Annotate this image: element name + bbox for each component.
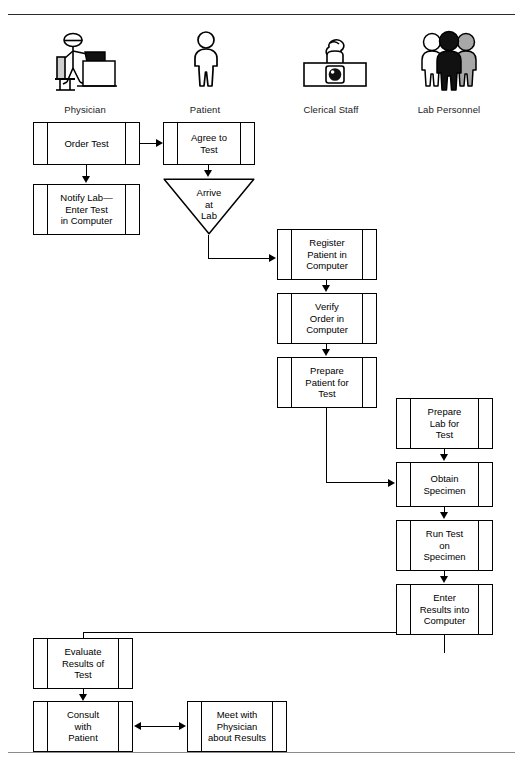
- connector-arrive-right: [208, 258, 270, 259]
- connector-arrive-down: [208, 235, 209, 259]
- standing-person-icon: [182, 30, 230, 100]
- arrowhead-prepare-to-obtain: [388, 479, 395, 487]
- box-order-test[interactable]: Order Test: [33, 122, 140, 165]
- arrowhead-meet-to-consult: [134, 722, 141, 730]
- arrowhead-register-to-verify: [322, 285, 330, 292]
- box-run-test-label: Run Test on Specimen: [420, 528, 468, 563]
- arrowhead-preplab-to-obtain: [440, 454, 448, 461]
- box-register-patient-label: Register Patient in Computer: [303, 237, 351, 272]
- arrowhead-evaluate-to-consult: [79, 694, 87, 701]
- box-evaluate-results-label: Evaluate Results of Test: [59, 646, 107, 681]
- clerk-at-counter-icon: [300, 32, 370, 100]
- box-notify-lab-label: Notify Lab— Enter Test in Computer: [57, 192, 115, 227]
- box-run-test[interactable]: Run Test on Specimen: [396, 520, 493, 571]
- box-prepare-patient-label: Prepare Patient for Test: [302, 365, 351, 400]
- arrowhead-run-to-enter: [440, 576, 448, 583]
- box-consult-patient[interactable]: Consult with Patient: [33, 701, 133, 752]
- role-label-lab-personnel: Lab Personnel: [399, 104, 499, 115]
- box-verify-order-label: Verify Order in Computer: [303, 301, 351, 336]
- box-prepare-patient[interactable]: Prepare Patient for Test: [277, 357, 377, 408]
- box-prepare-lab[interactable]: Prepare Lab for Test: [396, 398, 493, 449]
- box-enter-results[interactable]: Enter Results into Computer: [396, 584, 493, 635]
- arrowhead-obtain-to-run: [440, 512, 448, 519]
- physician-at-desk-icon: [47, 30, 123, 100]
- box-agree-to-test[interactable]: Agree to Test: [163, 122, 255, 165]
- role-label-patient: Patient: [155, 104, 255, 115]
- arrowhead-consult-to-meet: [179, 722, 186, 730]
- box-meet-physician-label: Meet with Physician about Results: [205, 709, 269, 744]
- role-label-clerical-staff: Clerical Staff: [281, 104, 381, 115]
- bottom-rule: [8, 752, 515, 753]
- three-people-icon: [413, 30, 485, 100]
- decision-arrive-at-lab-label: Arrive at Lab: [163, 187, 255, 222]
- arrowhead-agree-to-arrive: [204, 170, 212, 177]
- connector-enter-left: [83, 632, 445, 633]
- box-register-patient[interactable]: Register Patient in Computer: [277, 229, 377, 280]
- box-obtain-specimen-label: Obtain Specimen: [420, 473, 468, 496]
- box-evaluate-results[interactable]: Evaluate Results of Test: [33, 638, 133, 689]
- connector-consult-meet: [141, 726, 180, 727]
- box-enter-results-label: Enter Results into Computer: [417, 592, 473, 627]
- arrowhead-order-to-agree: [156, 139, 163, 147]
- connector-prepare-down: [326, 408, 327, 483]
- top-rule: [8, 14, 515, 15]
- connector-prepare-right: [326, 482, 389, 483]
- connector-enter-down: [444, 635, 445, 653]
- arrowhead-verify-to-prepare: [322, 349, 330, 356]
- arrowhead-arrive-to-register: [269, 254, 276, 262]
- box-order-test-label: Order Test: [61, 138, 111, 150]
- box-notify-lab[interactable]: Notify Lab— Enter Test in Computer: [33, 184, 140, 235]
- box-obtain-specimen[interactable]: Obtain Specimen: [396, 462, 493, 507]
- flowchart-canvas: Physician Patient Clerical Staff Lab Per…: [0, 0, 523, 771]
- connector-order-to-agree: [140, 143, 157, 144]
- decision-arrive-at-lab: Arrive at Lab: [163, 178, 255, 235]
- box-verify-order[interactable]: Verify Order in Computer: [277, 293, 377, 344]
- arrowhead-order-to-notify: [82, 176, 90, 183]
- role-label-physician: Physician: [35, 104, 135, 115]
- box-consult-patient-label: Consult with Patient: [64, 709, 102, 744]
- box-prepare-lab-label: Prepare Lab for Test: [425, 406, 465, 441]
- box-agree-to-test-label: Agree to Test: [188, 132, 230, 155]
- box-meet-physician[interactable]: Meet with Physician about Results: [187, 701, 287, 752]
